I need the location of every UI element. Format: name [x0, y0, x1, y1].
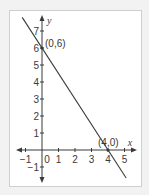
x-axis-arrow-left — [16, 148, 22, 153]
x-tick-label: 2 — [72, 154, 78, 165]
labels-layer: xy−1012345−11234567(0,6)(4,0) — [20, 15, 133, 173]
y-axis-arrow-down — [40, 177, 45, 183]
y-tick-label: 4 — [33, 77, 39, 88]
y-axis-arrow-up — [40, 15, 45, 21]
point-annotation: (4,0) — [98, 137, 119, 148]
x-tick-label: 4 — [105, 154, 111, 165]
x-axis-arrow-right — [131, 148, 137, 153]
point-annotation: (0,6) — [45, 38, 66, 49]
x-tick-label: 1 — [56, 154, 62, 165]
y-axis-label: y — [46, 15, 52, 26]
x-tick-label: 3 — [89, 154, 95, 165]
x-tick-label: 5 — [122, 154, 128, 165]
y-tick-label: 1 — [33, 128, 39, 139]
x-axis-label: x — [127, 137, 133, 148]
data-point — [40, 46, 43, 49]
y-tick-label: 7 — [33, 26, 39, 37]
data-point — [106, 148, 109, 151]
y-tick-label: −1 — [28, 162, 40, 173]
x-tick-label: 0 — [44, 154, 50, 165]
y-tick-label: 3 — [33, 94, 39, 105]
y-tick-label: 2 — [33, 111, 39, 122]
y-tick-label: 6 — [33, 43, 39, 54]
y-tick-label: 5 — [33, 60, 39, 71]
line-chart: xy−1012345−11234567(0,6)(4,0) — [0, 0, 149, 195]
